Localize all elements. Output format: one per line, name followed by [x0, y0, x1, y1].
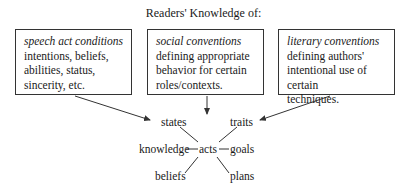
arrow-box1-to-states	[75, 96, 150, 120]
node-knowledge: knowledge	[139, 143, 189, 155]
node-states: states	[161, 116, 187, 128]
node-beliefs: beliefs	[155, 170, 186, 182]
connector-lines	[0, 0, 407, 191]
node-goals: goals	[230, 143, 254, 155]
node-traits: traits	[230, 116, 253, 128]
node-plans: plans	[230, 170, 254, 182]
arrow-box3-to-traits	[260, 96, 330, 120]
node-acts: acts	[199, 143, 217, 155]
